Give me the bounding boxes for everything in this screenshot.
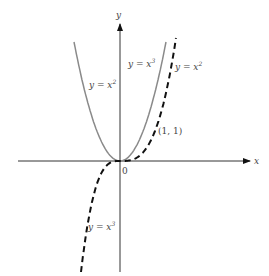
y-axis-label: y [115,10,122,20]
x-axis-label: x [254,156,259,166]
label-parabola-right: y = x3 [127,57,155,69]
origin-label: 0 [122,166,128,176]
function-graph: x y 0 y = x2 y = x3 y = x2 y = x3 (1, 1) [0,0,269,276]
series-line-x-cubed [81,38,176,272]
label-cubic-upper: y = x2 [174,60,202,72]
label-cubic-lower: y = x3 [87,220,115,232]
annotation-intersection: (1, 1) [158,126,182,136]
label-parabola-left: y = x2 [88,78,116,90]
